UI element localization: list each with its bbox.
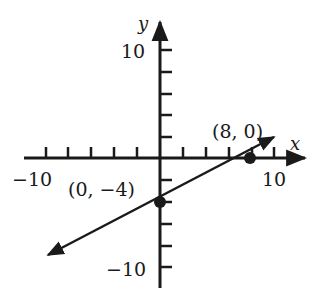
x-axis-label: x [290,133,300,154]
y-axis-label: y [137,13,149,34]
coordinate-plane: y x 10 −10 −10 10 (0, −4) (8, 0) [0,0,324,300]
x-tick-label-left: −10 [12,168,52,190]
point-x-intercept [244,152,256,164]
point-label-y-intercept: (0, −4) [68,178,135,200]
point-y-intercept [154,196,166,208]
point-label-x-intercept: (8, 0) [212,120,263,142]
y-tick-label-top: 10 [121,40,145,62]
x-tick-label-right: 10 [262,168,286,190]
y-tick-label-bottom: −10 [106,258,146,280]
graph: y x 10 −10 −10 10 (0, −4) (8, 0) [0,0,324,300]
